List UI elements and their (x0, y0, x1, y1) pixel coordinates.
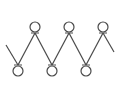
zigzag-segment (35, 33, 52, 65)
zigzag-segment (18, 33, 35, 65)
diagram-svg (0, 0, 121, 90)
node-circle-bottom-3 (81, 66, 91, 76)
node-circle-top-3 (98, 22, 108, 32)
node-circle-bottom-2 (47, 66, 57, 76)
zigzag-segment (103, 33, 114, 52)
zigzag-diagram (0, 0, 121, 90)
zigzag-segment (69, 33, 86, 65)
zigzag-segment (86, 33, 103, 65)
zigzag-segment (6, 45, 18, 65)
node-circle-top-1 (30, 22, 40, 32)
zigzag-segment (52, 33, 69, 65)
node-circle-top-2 (64, 22, 74, 32)
node-circle-bottom-1 (13, 66, 23, 76)
